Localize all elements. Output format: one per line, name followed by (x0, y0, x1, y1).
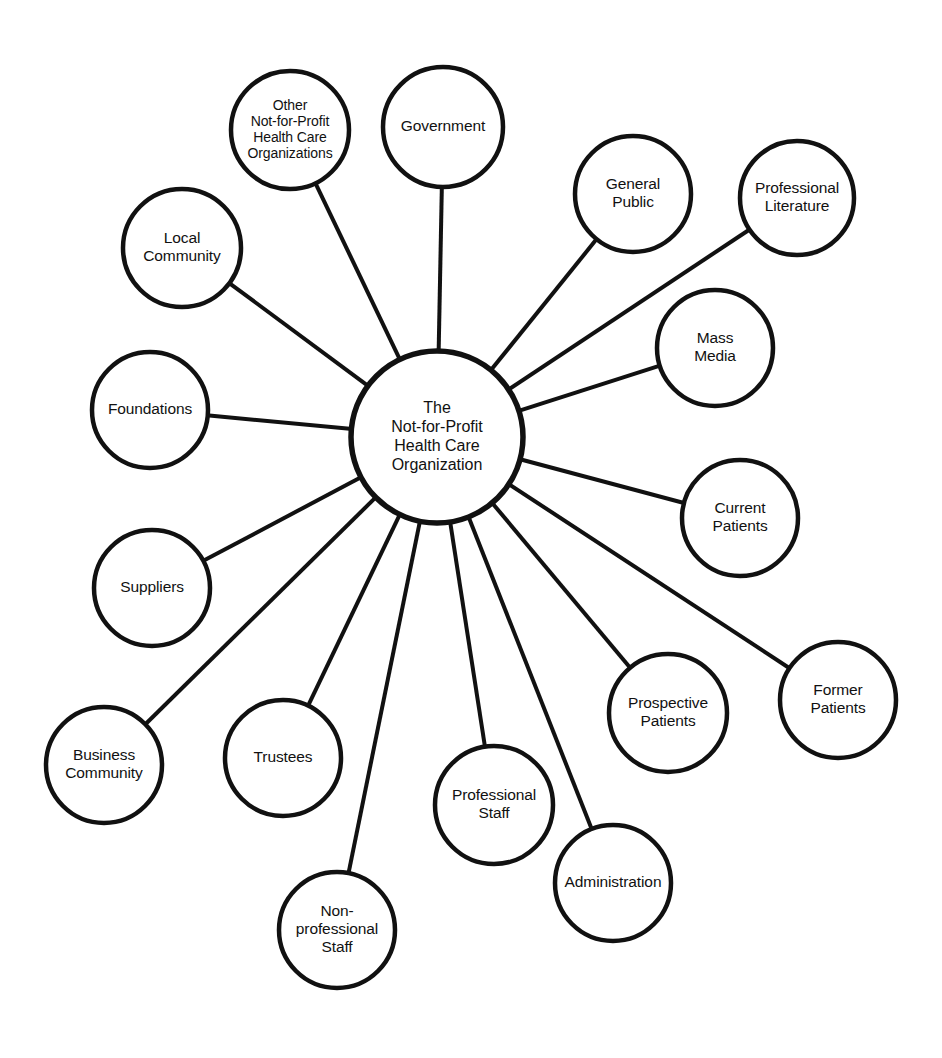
node-label: Administration (565, 873, 662, 890)
edge-mass-media (518, 365, 661, 411)
edge-government (439, 186, 442, 352)
edge-non-professional-staff (348, 520, 420, 874)
edge-suppliers (202, 477, 362, 562)
node-non-professional-staff[interactable]: Non-professionalStaff (279, 872, 395, 988)
node-label: CurrentPatients (712, 499, 768, 534)
edge-general-public (490, 238, 597, 370)
node-suppliers[interactable]: Suppliers (94, 530, 210, 646)
stakeholder-diagram: OtherNot-for-ProfitHealth CareOrganizati… (0, 0, 942, 1058)
node-general-public[interactable]: GeneralPublic (575, 136, 691, 252)
node-label: ProfessionalLiterature (755, 179, 839, 214)
stakeholder-diagram-canvas: OtherNot-for-ProfitHealth CareOrganizati… (0, 0, 942, 1058)
edge-prospective-patients (492, 502, 631, 668)
edge-local-community (229, 283, 369, 387)
edge-other-nfp-health-care-organizations (315, 182, 400, 360)
center-node-layer: TheNot-for-ProfitHealth CareOrganization (351, 351, 523, 523)
node-foundations[interactable]: Foundations (92, 352, 208, 468)
node-other-nfp-health-care-organizations[interactable]: OtherNot-for-ProfitHealth CareOrganizati… (231, 71, 349, 189)
node-administration[interactable]: Administration (555, 825, 671, 941)
node-former-patients[interactable]: FormerPatients (780, 642, 896, 758)
node-label: BusinessCommunity (65, 746, 143, 781)
edge-foundations (207, 415, 353, 429)
node-professional-staff[interactable]: ProfessionalStaff (435, 746, 553, 864)
node-label: Government (401, 117, 486, 134)
node-trustees[interactable]: Trustees (225, 700, 341, 816)
node-prospective-patients[interactable]: ProspectivePatients (609, 654, 727, 772)
edge-current-patients (519, 459, 685, 503)
node-business-community[interactable]: BusinessCommunity (46, 707, 162, 823)
node-center[interactable]: TheNot-for-ProfitHealth CareOrganization (351, 351, 523, 523)
edge-professional-staff (450, 521, 485, 748)
node-local-community[interactable]: LocalCommunity (123, 189, 241, 307)
node-label: Suppliers (120, 578, 184, 595)
node-label: MassMedia (694, 329, 736, 364)
node-label: Trustees (254, 748, 313, 765)
node-current-patients[interactable]: CurrentPatients (682, 460, 798, 576)
node-label: FormerPatients (810, 681, 866, 716)
node-label: GeneralPublic (606, 175, 660, 210)
node-government[interactable]: Government (383, 67, 503, 187)
node-mass-media[interactable]: MassMedia (657, 290, 773, 406)
node-label: Foundations (108, 400, 193, 417)
node-professional-literature[interactable]: ProfessionalLiterature (740, 141, 854, 255)
